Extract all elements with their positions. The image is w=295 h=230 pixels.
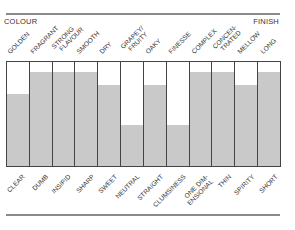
- bottom-label-line1: INSIPID: [50, 173, 72, 195]
- bottom-label-line1: DUMB: [31, 173, 50, 192]
- top-label: OAKY: [144, 37, 162, 55]
- top-label: FINESSE: [167, 30, 192, 55]
- top-label-line1: GOLDEN: [7, 30, 32, 55]
- top-label-line1: LONG: [259, 37, 277, 55]
- bar-fill: [212, 72, 234, 166]
- bottom-label: DUMB: [31, 173, 50, 192]
- bottom-label-line1: SHARP: [74, 173, 95, 194]
- top-label: DRY: [98, 40, 113, 55]
- top-label-line1: DRY: [98, 40, 113, 55]
- bar-column: [30, 62, 53, 166]
- bottom-label: CLEAR: [6, 173, 27, 194]
- bottom-label-line1: CLEAR: [6, 173, 27, 194]
- bottom-label-line1: SWEET: [97, 173, 119, 195]
- bottom-label-line1: SHORT: [257, 173, 278, 194]
- top-divider: [6, 13, 280, 15]
- bottom-label: SHARP: [74, 173, 95, 194]
- bar-column: [7, 62, 30, 166]
- bar-column: [144, 62, 167, 166]
- bar-fill: [258, 72, 280, 166]
- bottom-label: SHORT: [257, 173, 278, 194]
- bar-fill: [121, 125, 143, 166]
- bar-fill: [235, 85, 257, 166]
- bar-fill: [167, 125, 189, 166]
- bar-column: [190, 62, 213, 166]
- bar-column: [235, 62, 258, 166]
- bottom-label: THIN: [217, 173, 233, 189]
- bottom-label: SWEET: [97, 173, 119, 195]
- bottom-label: SPIRITY: [232, 173, 255, 196]
- bottom-divider: [6, 214, 280, 216]
- top-label-line1: OAKY: [144, 37, 162, 55]
- bar-column: [98, 62, 121, 166]
- colour-label: COLOUR: [4, 17, 37, 26]
- bar-fill: [7, 94, 29, 166]
- bar-fill: [98, 85, 120, 166]
- bar-fill: [190, 72, 212, 166]
- bottom-label-line1: SPIRITY: [232, 173, 255, 196]
- bar-column: [121, 62, 144, 166]
- flavour-profile-chart: [6, 61, 281, 167]
- bar-column: [53, 62, 76, 166]
- bar-column: [75, 62, 98, 166]
- bottom-label-line1: THIN: [217, 173, 233, 189]
- bar-column: [212, 62, 235, 166]
- top-label: GOLDEN: [7, 30, 32, 55]
- bar-column: [167, 62, 190, 166]
- bar-fill: [30, 72, 52, 166]
- bar-fill: [53, 72, 75, 166]
- bar-column: [258, 62, 280, 166]
- finish-label: FINISH: [253, 17, 279, 26]
- bar-fill: [75, 72, 97, 166]
- bar-fill: [144, 85, 166, 166]
- bottom-label: INSIPID: [50, 173, 72, 195]
- top-label: LONG: [259, 37, 277, 55]
- top-label-line1: FINESSE: [167, 30, 192, 55]
